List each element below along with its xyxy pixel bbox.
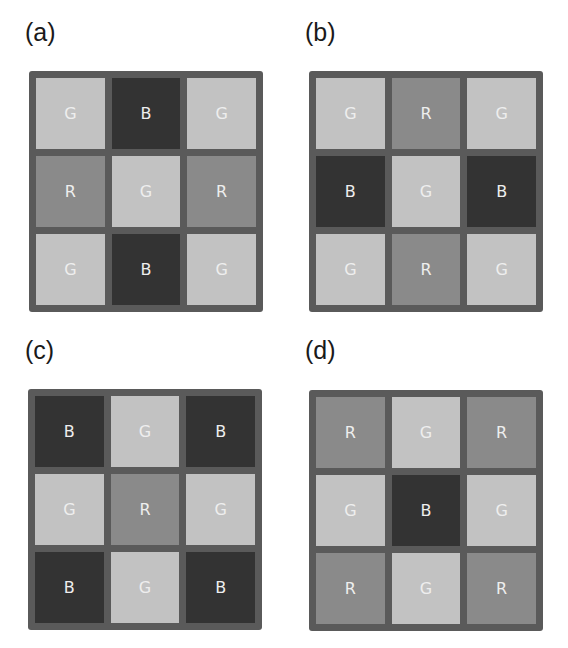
grid-cell: G: [112, 156, 181, 227]
grid-cell: B: [35, 396, 104, 467]
grid-cell: G: [316, 78, 385, 149]
grid-cell: B: [316, 156, 385, 227]
grid-cell: B: [186, 552, 255, 623]
grid-cell: G: [467, 234, 536, 305]
grid-cell: G: [35, 474, 104, 545]
grid-cell: R: [187, 156, 256, 227]
bayer-grid-d: R G R G B G R G R: [309, 390, 543, 631]
grid-cell: B: [392, 475, 461, 546]
grid-cell: R: [467, 397, 536, 468]
grid-cell: B: [112, 234, 181, 305]
grid-cell: G: [392, 156, 461, 227]
panel-label-d: (d): [305, 338, 336, 363]
grid-cell: R: [316, 397, 385, 468]
grid-cell: B: [467, 156, 536, 227]
panel-label-b: (b): [305, 20, 336, 45]
grid-cell: R: [111, 474, 180, 545]
bayer-grid-c: B G B G R G B G B: [28, 389, 262, 630]
grid-cell: G: [36, 234, 105, 305]
grid-cell: B: [112, 78, 181, 149]
bayer-grid-b: G R G B G B G R G: [309, 71, 543, 312]
grid-cell: R: [467, 553, 536, 624]
grid-cell: G: [36, 78, 105, 149]
grid-cell: B: [35, 552, 104, 623]
grid-cell: G: [467, 78, 536, 149]
grid-cell: G: [392, 397, 461, 468]
panel-label-c: (c): [25, 338, 54, 363]
grid-cell: G: [186, 474, 255, 545]
grid-cell: G: [111, 396, 180, 467]
grid-cell: G: [187, 234, 256, 305]
grid-cell: G: [467, 475, 536, 546]
panel-label-a: (a): [25, 20, 56, 45]
grid-cell: G: [392, 553, 461, 624]
grid-cell: R: [392, 234, 461, 305]
grid-cell: R: [316, 553, 385, 624]
grid-cell: G: [111, 552, 180, 623]
grid-cell: G: [316, 475, 385, 546]
grid-cell: R: [36, 156, 105, 227]
bayer-grid-a: G B G R G R G B G: [29, 71, 263, 312]
grid-cell: R: [392, 78, 461, 149]
grid-cell: G: [316, 234, 385, 305]
grid-cell: B: [186, 396, 255, 467]
grid-cell: G: [187, 78, 256, 149]
